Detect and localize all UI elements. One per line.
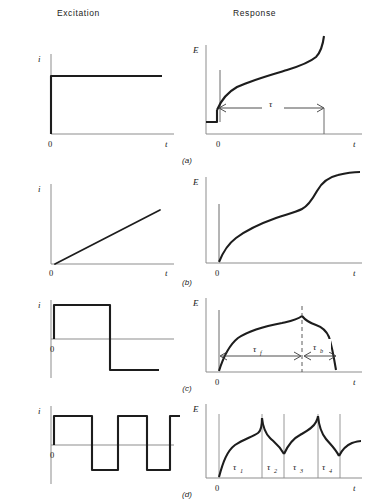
column-header-excitation: Excitation <box>57 8 100 18</box>
response-prestep <box>206 110 217 122</box>
axis-label-current: i <box>38 54 41 64</box>
excitation-waveform-square-wave <box>54 416 180 470</box>
panel-a-caption: (a) <box>0 156 374 165</box>
response-segment-tau4 <box>318 416 339 456</box>
panel-d-excitation-plot: i 0 <box>34 398 179 494</box>
panel-d: i 0 E τ <box>0 396 374 503</box>
panel-a: i 0 t E τ 0 <box>0 34 374 168</box>
tau-3-subscript: 3 <box>299 467 303 474</box>
tau-label-backing <box>262 97 284 110</box>
figure-chronopotentiometry-waveforms: Excitation Response i 0 t E <box>0 0 374 503</box>
column-header-response: Response <box>233 8 276 18</box>
response-segment-tau3 <box>284 416 318 454</box>
panel-d-response-plot: E τ 1 τ 2 τ 3 τ 4 <box>192 396 367 496</box>
panel-c-excitation-plot: i 0 <box>34 292 179 388</box>
response-segment-tail <box>339 441 361 456</box>
excitation-waveform-ramp <box>55 210 160 264</box>
axis-label-current: i <box>38 300 41 310</box>
axis-label-potential: E <box>192 45 199 55</box>
panel-a-excitation-plot: i 0 t <box>34 40 179 150</box>
response-curve-double-sigmoid <box>219 172 360 262</box>
tau-2-label: τ <box>267 462 271 472</box>
origin-label: 0 <box>215 268 219 278</box>
excitation-waveform-step <box>51 76 162 134</box>
axis-label-current: i <box>38 406 41 416</box>
axis-label-potential: E <box>192 298 199 308</box>
tau-3-label: τ <box>293 462 297 472</box>
panel-d-caption: (d) <box>0 490 374 499</box>
origin-label: 0 <box>50 450 54 460</box>
axis-label-current: i <box>38 184 41 194</box>
panel-c-caption: (c) <box>0 384 374 393</box>
panel-c: i 0 E τ <box>0 290 374 396</box>
origin-label: 0 <box>50 344 54 354</box>
axis-label-time: t <box>165 268 168 278</box>
axis-label-potential: E <box>192 404 199 414</box>
origin-label: 0 <box>216 139 220 149</box>
tau-4-label: τ <box>322 462 326 472</box>
panel-b-excitation-plot: i 0 t <box>34 174 179 279</box>
tau-4-subscript: 4 <box>329 467 332 474</box>
panel-c-response-plot: E τ f τ b 0 t <box>192 290 367 390</box>
response-segment-tau2 <box>262 418 284 454</box>
tau-1-label: τ <box>233 462 237 472</box>
axis-label-time: t <box>353 268 356 278</box>
origin-label: 0 <box>48 139 52 149</box>
panel-b-caption: (b) <box>0 278 374 287</box>
tau-1-subscript: 1 <box>240 467 243 474</box>
excitation-waveform-current-reversal <box>54 305 159 370</box>
origin-label: 0 <box>49 268 53 278</box>
axis-label-potential: E <box>192 177 199 187</box>
tau-2-subscript: 2 <box>274 467 277 474</box>
axis-label-time: t <box>165 139 168 149</box>
tau-b-subscript: b <box>320 347 323 354</box>
panel-a-response-plot: E τ 0 t <box>192 34 367 152</box>
panel-b-response-plot: E 0 t <box>192 168 367 280</box>
axis-label-time: t <box>353 139 356 149</box>
panel-b: i 0 t E 0 t (b) <box>0 168 374 290</box>
